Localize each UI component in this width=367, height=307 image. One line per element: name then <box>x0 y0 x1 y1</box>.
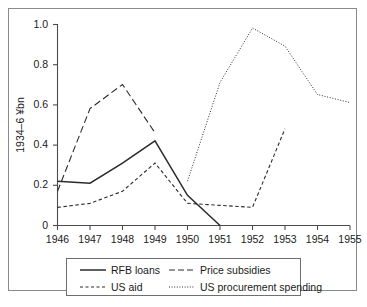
x-tick-label-1953: 1953 <box>273 233 297 245</box>
x-tick-label-1947: 1947 <box>78 233 102 245</box>
x-tick-label-1952: 1952 <box>241 233 265 245</box>
y-tick-label-4: 0.4 <box>33 138 48 150</box>
legend-label-us-procurement-spending: US procurement spending <box>200 281 322 293</box>
y-tick-label-1: 1.0 <box>33 18 48 30</box>
y-tick-marks <box>53 25 58 226</box>
series-path-us-procurement-spending <box>188 28 351 181</box>
x-tick-label-1950: 1950 <box>176 233 200 245</box>
chart-figure: 1934–6 ¥bn 1.0 0.8 0.6 0.4 0.2 0 <box>0 0 367 307</box>
x-tick-label-1954: 1954 <box>306 233 330 245</box>
legend-label-price-subsidies: Price subsidies <box>200 264 271 276</box>
y-tick-label-6: 0 <box>42 219 48 231</box>
y-tick-label-3: 0.6 <box>33 98 48 110</box>
x-tick-marks <box>58 226 351 231</box>
x-tick-label-1951: 1951 <box>208 233 232 245</box>
series-layer <box>58 28 351 225</box>
y-tick-label-5: 0.2 <box>33 178 48 190</box>
x-tick-label-1949: 1949 <box>143 233 167 245</box>
x-tick-label-1946: 1946 <box>46 233 70 245</box>
line-chart: 1934–6 ¥bn 1.0 0.8 0.6 0.4 0.2 0 <box>0 0 367 307</box>
y-axis-title: 1934–6 ¥bn <box>14 97 26 153</box>
x-tick-label-1948: 1948 <box>111 233 135 245</box>
series-path-rfb-loans <box>58 141 221 226</box>
legend-label-rfb-loans: RFB loans <box>111 264 160 276</box>
y-tick-label-2: 0.8 <box>33 58 48 70</box>
x-tick-label-1955: 1955 <box>338 233 362 245</box>
legend-label-us-aid: US aid <box>111 281 143 293</box>
